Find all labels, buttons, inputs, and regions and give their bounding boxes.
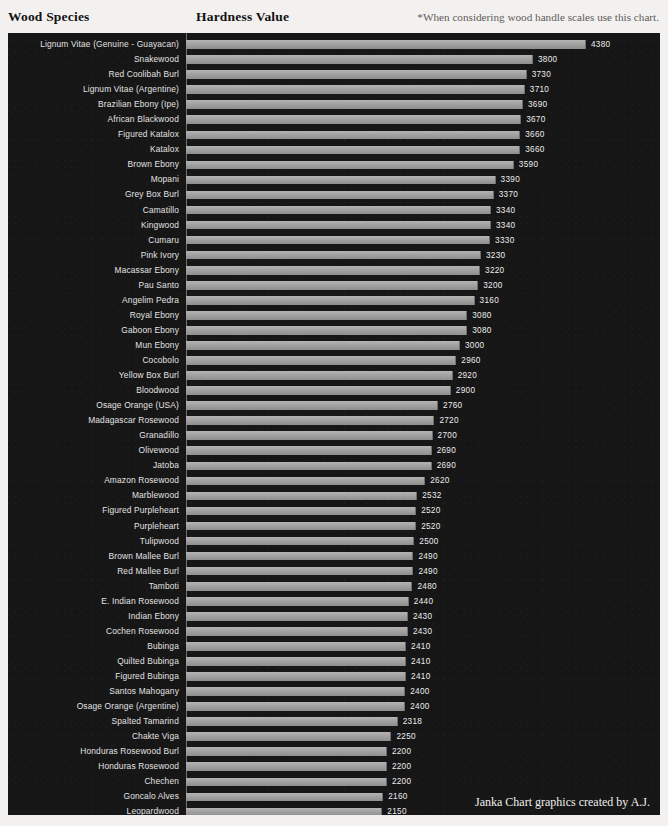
- chart-row: Mun Ebony3000: [8, 338, 660, 353]
- chart-row: Pau Santo3200: [8, 278, 660, 293]
- row-label-species: African Blackwood: [8, 112, 186, 127]
- row-label-species: Bloodwood: [8, 383, 186, 398]
- chart-row: Bloodwood2900: [8, 383, 660, 398]
- row-bar-area: 3160: [186, 293, 660, 308]
- bar-value-label: 2200: [392, 747, 411, 756]
- hardness-bar: [186, 552, 413, 561]
- hardness-bar: [186, 341, 460, 350]
- chart-row: Chechen2200: [8, 774, 660, 789]
- row-bar-area: 2720: [186, 413, 660, 428]
- hardness-bar: [186, 236, 490, 245]
- hardness-bar: [186, 115, 521, 124]
- bar-value-label: 3660: [525, 145, 544, 154]
- chart-row: Spalted Tamarind2318: [8, 714, 660, 729]
- bar-value-label: 3080: [472, 326, 491, 335]
- bar-value-label: 3710: [530, 85, 549, 94]
- chart-row: Marblewood2532: [8, 488, 660, 503]
- chart-row: Tulipwood2500: [8, 534, 660, 549]
- chart-row: Royal Ebony3080: [8, 308, 660, 323]
- bar-value-label: 3730: [532, 70, 551, 79]
- hardness-bar: [186, 462, 432, 471]
- hardness-bar: [186, 747, 387, 756]
- hardness-bar: [186, 161, 514, 170]
- bar-value-label: 2250: [396, 732, 415, 741]
- chart-row: Pink Ivory3230: [8, 248, 660, 263]
- bar-value-label: 2960: [461, 356, 480, 365]
- chart-row: Honduras Rosewood Burl2200: [8, 744, 660, 759]
- row-label-species: E. Indian Rosewood: [8, 594, 186, 609]
- chart-row: Lignum Vitae (Argentine)3710: [8, 82, 660, 97]
- row-bar-area: 2500: [186, 534, 660, 549]
- row-label-species: Leopardwood: [8, 804, 186, 815]
- chart-row: Brazilian Ebony (Ipe)3690: [8, 97, 660, 112]
- bar-value-label: 3000: [465, 341, 484, 350]
- hardness-bar: [186, 446, 432, 455]
- row-label-species: Indian Ebony: [8, 609, 186, 624]
- janka-hardness-chart-page: Wood Species Hardness Value *When consid…: [0, 0, 668, 826]
- row-bar-area: 4380: [186, 37, 660, 52]
- row-bar-area: 2520: [186, 503, 660, 518]
- chart-row: Cocobolo2960: [8, 353, 660, 368]
- chart-row: Figured Bubinga2410: [8, 669, 660, 684]
- row-bar-area: 2532: [186, 488, 660, 503]
- row-label-species: Yellow Box Burl: [8, 368, 186, 383]
- hardness-bar: [186, 537, 414, 546]
- hardness-bar: [186, 702, 405, 711]
- row-bar-area: 3660: [186, 142, 660, 157]
- bar-value-label: 2490: [418, 552, 437, 561]
- row-bar-area: 3220: [186, 263, 660, 278]
- chart-row: Brown Ebony3590: [8, 157, 660, 172]
- row-bar-area: 3690: [186, 97, 660, 112]
- bar-value-label: 3160: [480, 296, 499, 305]
- hardness-bar: [186, 191, 494, 200]
- chart-row: Mopani3390: [8, 172, 660, 187]
- bar-value-label: 3330: [495, 236, 514, 245]
- row-bar-area: 3730: [186, 67, 660, 82]
- chart-row: Granadillo2700: [8, 428, 660, 443]
- row-label-species: Olivewood: [8, 443, 186, 458]
- hardness-bar: [186, 522, 416, 531]
- chart-row: Madagascar Rosewood2720: [8, 413, 660, 428]
- row-label-species: Madagascar Rosewood: [8, 413, 186, 428]
- bar-value-label: 2700: [438, 431, 457, 440]
- chart-row: Snakewood3800: [8, 52, 660, 67]
- row-label-species: Purpleheart: [8, 519, 186, 534]
- row-bar-area: 2200: [186, 744, 660, 759]
- bar-value-label: 2900: [456, 386, 475, 395]
- row-label-species: Bubinga: [8, 639, 186, 654]
- row-label-species: Tulipwood: [8, 534, 186, 549]
- hardness-bar: [186, 311, 467, 320]
- row-label-species: Macassar Ebony: [8, 263, 186, 278]
- row-label-species: Angelim Pedra: [8, 293, 186, 308]
- row-label-species: Cochen Rosewood: [8, 624, 186, 639]
- hardness-bar: [186, 793, 383, 802]
- row-bar-area: 2440: [186, 594, 660, 609]
- row-bar-area: 3800: [186, 52, 660, 67]
- hardness-bar: [186, 627, 408, 636]
- row-bar-area: 2690: [186, 458, 660, 473]
- hardness-bar: [186, 492, 417, 501]
- bar-value-label: 2430: [413, 612, 432, 621]
- hardness-bar: [186, 657, 406, 666]
- hardness-bar: [186, 582, 412, 591]
- bar-value-label: 4380: [591, 40, 610, 49]
- bar-value-label: 3800: [538, 55, 557, 64]
- bar-value-label: 2410: [411, 672, 430, 681]
- hardness-bar: [186, 70, 527, 79]
- chart-row: African Blackwood3670: [8, 112, 660, 127]
- hardness-bar: [186, 326, 467, 335]
- chart-row: Kingwood3340: [8, 218, 660, 233]
- hardness-bar: [186, 431, 433, 440]
- bar-value-label: 3670: [526, 115, 545, 124]
- hardness-bar: [186, 567, 413, 576]
- chart-row: Chakte Viga2250: [8, 729, 660, 744]
- hardness-bar: [186, 401, 438, 410]
- bar-value-label: 2690: [437, 461, 456, 470]
- bar-value-label: 3200: [483, 281, 502, 290]
- hardness-bar: [186, 762, 387, 771]
- row-bar-area: 2620: [186, 473, 660, 488]
- hardness-bar: [186, 221, 491, 230]
- bar-value-label: 3660: [525, 130, 544, 139]
- bar-value-label: 2200: [392, 777, 411, 786]
- row-bar-area: 2490: [186, 564, 660, 579]
